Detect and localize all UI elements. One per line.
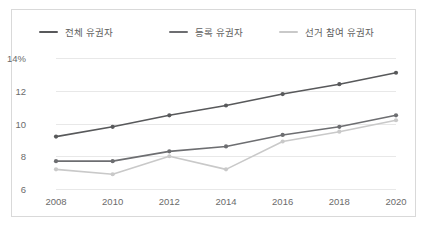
x-axis-tick-label: 2010 [83,196,143,207]
y-axis-tick-label: 12 [0,85,26,96]
data-point[interactable] [337,130,341,134]
legend-swatch-icon [279,31,298,33]
data-point[interactable] [281,92,285,96]
data-point[interactable] [394,113,398,117]
series-0 [54,71,398,139]
plot-area [56,58,396,189]
x-axis-tick-label: 2018 [309,196,369,207]
x-axis-tick-label: 2020 [366,196,426,207]
x-axis-tick-label: 2008 [26,196,86,207]
legend-swatch-icon [39,31,58,33]
data-point[interactable] [337,125,341,129]
legend-item-1[interactable]: 등록 유권자 [169,23,243,41]
series-lines [56,58,396,189]
data-point[interactable] [224,167,228,171]
legend-item-label: 전체 유권자 [65,25,113,39]
x-axis-tick-label: 2016 [253,196,313,207]
data-point[interactable] [111,159,115,163]
data-point[interactable] [54,135,58,139]
legend-item-0[interactable]: 전체 유권자 [39,23,113,41]
series-1 [54,113,398,163]
legend-item-2[interactable]: 선거 참여 유권자 [279,23,374,41]
data-point[interactable] [281,133,285,137]
legend-swatch-icon [169,31,188,33]
x-axis-tick-label: 2014 [196,196,256,207]
data-point[interactable] [111,172,115,176]
y-axis-tick-label: 6 [0,184,26,195]
gridline [56,189,396,190]
data-point[interactable] [167,149,171,153]
data-point[interactable] [54,167,58,171]
data-point[interactable] [337,82,341,86]
data-point[interactable] [394,71,398,75]
legend-item-label: 등록 유권자 [195,25,243,39]
legend-item-label: 선거 참여 유권자 [305,25,374,39]
data-point[interactable] [167,113,171,117]
data-point[interactable] [54,159,58,163]
series-line [56,115,396,161]
data-point[interactable] [394,118,398,122]
y-axis-tick-label: 8 [0,151,26,162]
x-axis-tick-label: 2012 [139,196,199,207]
data-point[interactable] [167,154,171,158]
data-point[interactable] [224,144,228,148]
chart-legend: 전체 유권자등록 유권자선거 참여 유권자 [12,23,415,41]
data-point[interactable] [111,125,115,129]
y-axis-tick-label: 14% [0,53,26,64]
chart-card: 전체 유권자등록 유권자선거 참여 유권자 68101214% 20082010… [11,9,416,217]
y-axis-tick-label: 10 [0,118,26,129]
data-point[interactable] [281,139,285,143]
data-point[interactable] [224,103,228,107]
